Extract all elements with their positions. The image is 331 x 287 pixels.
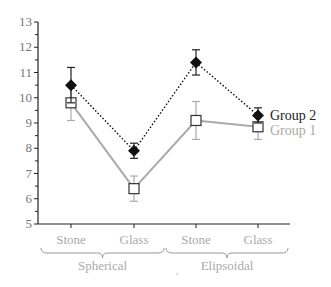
group-brace [166,248,288,258]
y-tick-label: 9 [26,115,33,130]
y-tick-label: 5 [26,216,33,231]
data-point-diamond [190,56,202,68]
y-tick-label: 11 [19,65,32,80]
x-category-label: Glass [120,232,149,247]
y-tick-label: 6 [26,191,33,206]
data-point-diamond [252,109,264,121]
y-tick-label: 8 [26,140,33,155]
y-tick-label: 12 [19,39,32,54]
x-category-label: Stone [181,232,211,247]
x-category-label: Stone [56,232,86,247]
data-point-square [191,115,201,125]
data-point-diamond [65,79,77,91]
y-tick-label: 13 [19,14,32,29]
data-point-square [129,184,139,194]
x-category-label: Glass [244,232,273,247]
legend-label: Group 1 [270,123,316,138]
group-label: Spherical [78,258,127,273]
group-label: Elipsoidal [201,258,254,273]
y-tick-label: 7 [26,166,33,181]
group-brace [41,248,164,258]
y-tick-label: 10 [19,90,32,105]
legend-label: Group 2 [270,108,316,123]
line-chart: 5678910111213StoneGlassStoneGlassSpheric… [0,0,331,287]
